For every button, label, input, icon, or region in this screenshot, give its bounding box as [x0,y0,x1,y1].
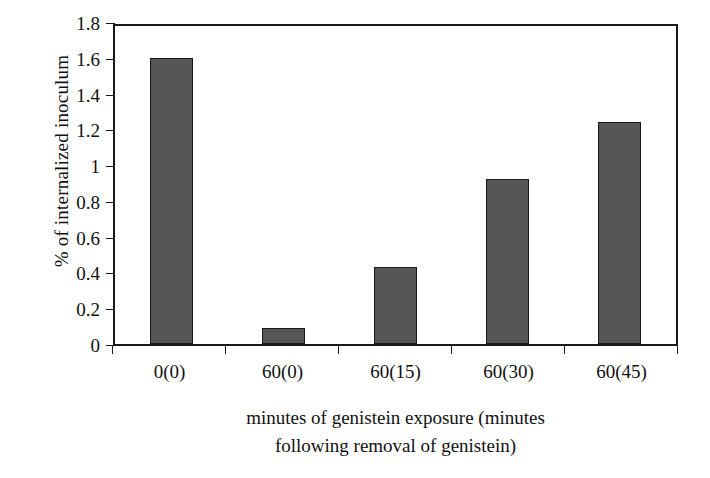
y-tick-label: 0 [38,336,100,355]
y-tick [106,345,115,346]
bar-slot [339,26,451,344]
x-axis-title: minutes of genistein exposure (minutes f… [113,404,678,459]
y-tick [106,202,115,203]
x-tick [112,345,113,354]
x-category-label: 60(15) [339,362,452,383]
x-tick [338,345,339,354]
y-tick-label: 0.4 [38,264,100,283]
x-category-label: 60(30) [452,362,565,383]
bar-chart-figure: % of internalized inoculum 00.20.40.60.8… [0,0,710,478]
y-tick-label: 1.6 [38,50,100,69]
bar-0 [150,58,193,344]
y-tick [106,130,115,131]
x-axis-title-line-1: minutes of genistein exposure (minutes [113,404,678,432]
y-tick [106,309,115,310]
bar-4 [598,122,641,344]
y-tick [106,23,115,24]
x-axis-title-line-2: following removal of genistein) [113,432,678,460]
bar-2 [374,267,417,344]
y-tick-label: 1.2 [38,121,100,140]
x-tick [225,345,226,354]
bar-slot [564,26,676,344]
bar-slot [227,26,339,344]
x-category-label: 0(0) [113,362,226,383]
y-tick-label: 1.4 [38,86,100,105]
y-tick-label: 1.8 [38,14,100,33]
y-tick [106,59,115,60]
y-tick [106,273,115,274]
x-tick [564,345,565,354]
y-tick-label: 0.8 [38,193,100,212]
x-tick [677,345,678,354]
bar-3 [486,179,529,344]
y-tick [106,95,115,96]
x-category-label: 60(45) [565,362,678,383]
y-tick-label: 1 [38,157,100,176]
x-tick [451,345,452,354]
y-tick [106,166,115,167]
y-tick [106,238,115,239]
plot-area [113,24,678,346]
bar-series [115,26,676,344]
bar-slot [115,26,227,344]
bar-slot [452,26,564,344]
bar-1 [262,328,305,344]
y-tick-label: 0.2 [38,300,100,319]
x-category-label: 60(0) [226,362,339,383]
y-tick-label: 0.6 [38,229,100,248]
